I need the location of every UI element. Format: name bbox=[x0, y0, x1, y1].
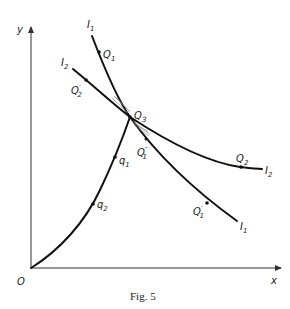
label-i2-top: I2 bbox=[61, 57, 69, 71]
label-i1-end: I1 bbox=[240, 221, 247, 235]
label-q1-upper: Q1 bbox=[103, 49, 115, 63]
label-q1-double-prime: Q″1 bbox=[137, 146, 148, 161]
label-q2-prime: Q′2 bbox=[71, 84, 82, 99]
point-q1-double-prime bbox=[145, 138, 148, 141]
expansion-path-curve bbox=[31, 117, 130, 268]
label-q1-lower: q1 bbox=[119, 155, 130, 169]
point-q3 bbox=[128, 115, 132, 119]
label-q1-prime: Q′1 bbox=[193, 205, 204, 220]
figure-caption: Fig. 5 bbox=[130, 290, 156, 302]
label-i2-end: I2 bbox=[265, 165, 273, 179]
point-q1-prime bbox=[205, 201, 209, 205]
y-axis-label: y bbox=[16, 24, 24, 35]
economic-diagram: y x O I1 bbox=[0, 0, 290, 309]
label-i1-top: I1 bbox=[87, 19, 94, 33]
point-q2 bbox=[239, 165, 243, 169]
point-q2-prime bbox=[84, 78, 88, 82]
indifference-curve-i2 bbox=[73, 69, 262, 169]
indifference-curve-i1 bbox=[92, 36, 237, 221]
x-axis-label: x bbox=[270, 275, 277, 286]
label-q2-lower: q2 bbox=[97, 199, 108, 213]
label-q2: Q2 bbox=[236, 153, 249, 167]
point-q1-lower bbox=[113, 155, 117, 159]
origin-label: O bbox=[17, 276, 25, 287]
point-q2-lower bbox=[91, 202, 95, 206]
point-q1-upper bbox=[97, 50, 101, 54]
